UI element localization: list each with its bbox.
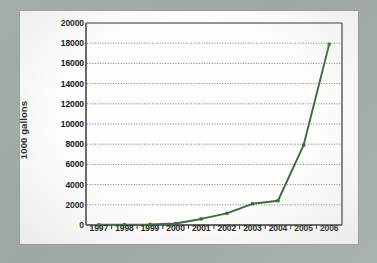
screenshot-root: 1000 gallons 200001800016000140001200010… [0,0,377,263]
data-point-markers [97,43,331,227]
data-series-line [99,44,329,225]
x-tick-label: 2000 [166,223,185,233]
chart-card: 1000 gallons 200001800016000140001200010… [20,11,358,244]
x-tick-label: 2006 [320,223,339,233]
x-tick-label: 2003 [243,223,262,233]
gridlines [87,43,341,205]
data-point-marker [200,217,203,220]
x-tick-label: 2004 [269,223,288,233]
data-point-marker [328,43,331,46]
data-point-marker [225,212,228,215]
plot-area [20,11,358,244]
line-chart: 1000 gallons 200001800016000140001200010… [20,11,358,244]
x-tick-label: 2005 [294,223,313,233]
x-tick-label: 1997 [90,223,109,233]
x-tick-label: 1999 [141,223,160,233]
x-tick-label: 2001 [192,223,211,233]
data-point-marker [276,199,279,202]
data-point-marker [302,144,305,147]
x-tick-label: 2002 [218,223,237,233]
data-point-marker [251,202,254,205]
x-axis-tick-labels: 1997199819992000200120022003200420052006 [86,223,342,239]
x-tick-label: 1998 [115,223,134,233]
